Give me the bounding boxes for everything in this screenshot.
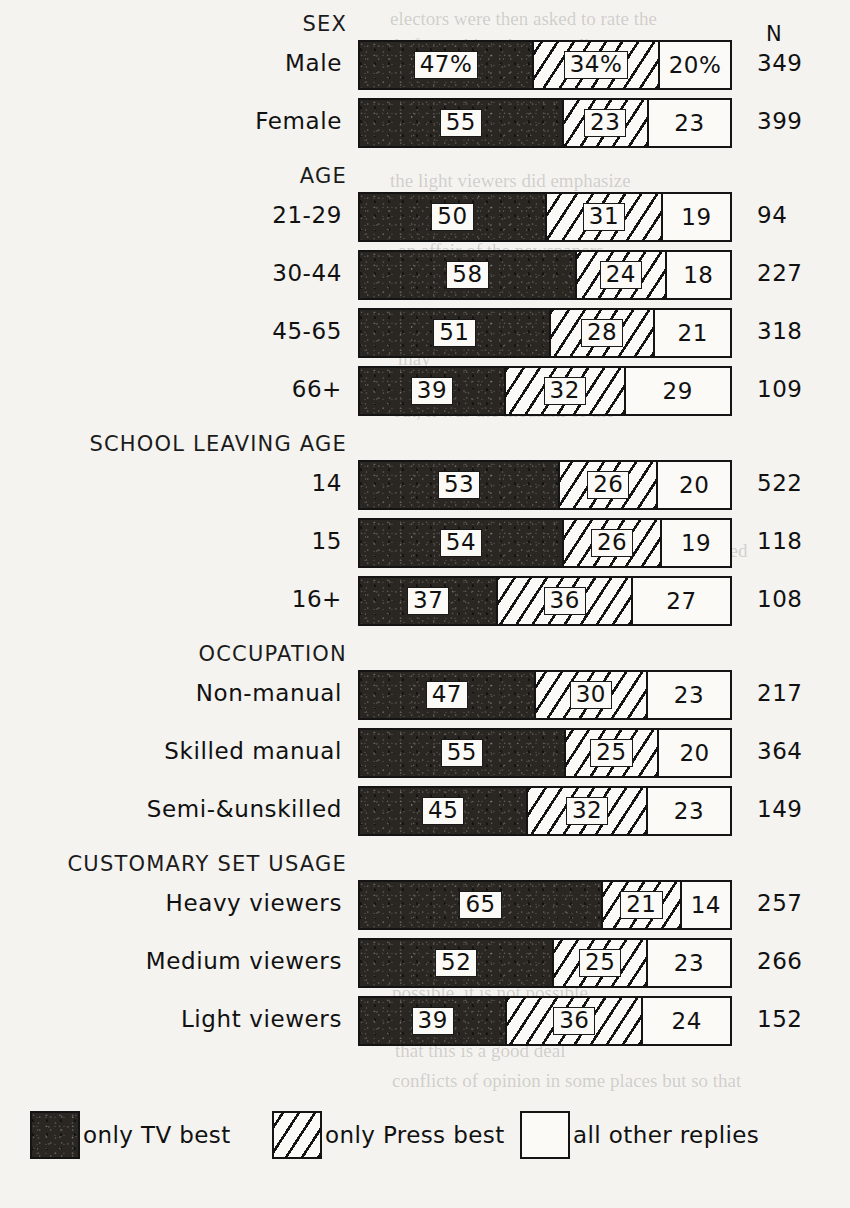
bar-segment-other: 23 — [647, 98, 732, 148]
stacked-bar: 582418 — [358, 250, 732, 300]
chart-row: 21-2950311994 — [0, 192, 850, 242]
segment-value: 20 — [679, 741, 709, 766]
segment-value: 47 — [426, 681, 468, 709]
row-n-value: 152 — [757, 1006, 802, 1032]
segment-value: 47% — [414, 51, 479, 79]
bar-segment-tv: 39 — [358, 366, 504, 416]
legend-item-press: only Press best — [272, 1110, 505, 1160]
legend-swatch-press — [272, 1111, 322, 1159]
row-n-value: 399 — [757, 108, 802, 134]
segment-value: 58 — [446, 261, 488, 289]
segment-value: 21 — [620, 891, 662, 919]
segment-value: 28 — [581, 319, 623, 347]
bar-segment-tv: 55 — [358, 728, 564, 778]
row-n-value: 364 — [757, 738, 802, 764]
bar-segment-other: 24 — [641, 996, 732, 1046]
segment-value: 29 — [663, 379, 693, 404]
row-n-value: 94 — [757, 202, 787, 228]
row-label: 14 — [312, 470, 342, 496]
segment-value: 32 — [544, 377, 586, 405]
stacked-bar: 522523 — [358, 938, 732, 988]
segment-value: 23 — [584, 109, 626, 137]
segment-value: 36 — [544, 587, 586, 615]
bar-segment-other: 19 — [660, 518, 732, 568]
row-label: 16+ — [292, 586, 342, 612]
legend-item-other: all other replies — [520, 1110, 759, 1160]
chart-row: 15542619118 — [0, 518, 850, 568]
bar-segment-press: 31 — [545, 192, 661, 242]
segment-value: 31 — [583, 203, 625, 231]
row-n-value: 108 — [757, 586, 802, 612]
segment-value: 45 — [422, 797, 464, 825]
chart-row: 14532620522 — [0, 460, 850, 510]
segment-value: 55 — [440, 109, 482, 137]
chart-row: Male47%34%20%349 — [0, 40, 850, 90]
group-header: SEX — [302, 12, 347, 36]
row-n-value: 522 — [757, 470, 802, 496]
bar-segment-press: 26 — [558, 460, 656, 510]
chart-row: Light viewers393624152 — [0, 996, 850, 1046]
row-label: Female — [255, 108, 342, 134]
stacked-bar: 393624 — [358, 996, 732, 1046]
row-n-value: 109 — [757, 376, 802, 402]
row-label: 66+ — [292, 376, 342, 402]
segment-value: 52 — [435, 949, 477, 977]
segment-value: 14 — [691, 893, 721, 918]
stacked-bar: 552520 — [358, 728, 732, 778]
row-n-value: 217 — [757, 680, 802, 706]
stacked-bar: 512821 — [358, 308, 732, 358]
bar-segment-other: 20 — [656, 460, 732, 510]
segment-value: 19 — [681, 205, 711, 230]
segment-value: 39 — [411, 377, 453, 405]
legend-label: only TV best — [83, 1122, 231, 1148]
chart-row: Non-manual473023217 — [0, 670, 850, 720]
bar-segment-tv: 51 — [358, 308, 549, 358]
bar-segment-other: 23 — [646, 938, 732, 988]
row-label: 45-65 — [272, 318, 342, 344]
stacked-bar: 552323 — [358, 98, 732, 148]
chart-row: 30-44582418227 — [0, 250, 850, 300]
bar-segment-tv: 47% — [358, 40, 532, 90]
chart-row: Semi-&unskilled453223149 — [0, 786, 850, 836]
segment-value: 25 — [590, 739, 632, 767]
bar-segment-other: 20% — [658, 40, 732, 90]
stacked-bar: 373627 — [358, 576, 732, 626]
bar-segment-tv: 53 — [358, 460, 558, 510]
legend-swatch-other — [520, 1111, 570, 1159]
row-n-value: 257 — [757, 890, 802, 916]
row-label: 15 — [312, 528, 342, 554]
row-label: 21-29 — [272, 202, 342, 228]
bar-segment-press: 36 — [505, 996, 641, 1046]
stacked-bar: 652114 — [358, 880, 732, 930]
bar-segment-tv: 58 — [358, 250, 575, 300]
chart-row: Female552323399 — [0, 98, 850, 148]
group-header: AGE — [300, 164, 347, 188]
row-n-value: 266 — [757, 948, 802, 974]
segment-value: 19 — [681, 531, 711, 556]
bar-segment-other: 23 — [646, 786, 732, 836]
stacked-bar: 503119 — [358, 192, 732, 242]
bar-segment-other: 20 — [657, 728, 732, 778]
bar-segment-press: 30 — [534, 670, 646, 720]
row-label: Skilled manual — [164, 738, 342, 764]
bar-segment-press: 25 — [564, 728, 658, 778]
bar-segment-press: 24 — [575, 250, 665, 300]
legend-swatch-tv — [30, 1111, 80, 1159]
segment-value: 23 — [674, 799, 704, 824]
bar-segment-press: 34% — [532, 40, 658, 90]
segment-value: 24 — [672, 1009, 702, 1034]
stacked-bar-chart: N SEXMale47%34%20%349Female552323399AGE2… — [0, 0, 850, 1208]
bar-segment-press: 32 — [504, 366, 624, 416]
row-n-value: 349 — [757, 50, 802, 76]
segment-value: 55 — [441, 739, 483, 767]
chart-row: 45-65512821318 — [0, 308, 850, 358]
row-label: Male — [285, 50, 342, 76]
chart-row: Skilled manual552520364 — [0, 728, 850, 778]
segment-value: 53 — [438, 471, 480, 499]
bar-segment-tv: 50 — [358, 192, 545, 242]
row-label: Light viewers — [181, 1006, 342, 1032]
segment-value: 26 — [587, 471, 629, 499]
stacked-bar: 532620 — [358, 460, 732, 510]
bar-segment-tv: 54 — [358, 518, 562, 568]
bar-segment-press: 32 — [526, 786, 646, 836]
